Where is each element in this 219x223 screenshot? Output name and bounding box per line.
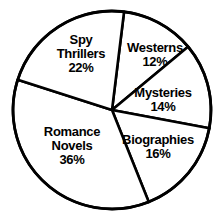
pie-slice-label-spy-thrillers: SpyThrillers22% (57, 33, 106, 75)
pie-slice-label-westerns: Westerns12% (127, 41, 183, 69)
slice-percent-value: 22% (57, 61, 106, 75)
slice-label-text: Spy (57, 33, 106, 47)
slice-label-text: Biographies (122, 133, 194, 147)
slice-label-text: Romance (44, 125, 100, 139)
pie-slice-label-biographies: Biographies16% (122, 133, 194, 161)
slice-label-text: Thrillers (57, 47, 106, 61)
slice-label-text: Novels (44, 139, 100, 153)
slice-percent-value: 14% (134, 100, 191, 114)
pie-slice-label-mysteries: Mysteries14% (134, 86, 191, 114)
pie-chart: Westerns12%Mysteries14%Biographies16%Rom… (0, 0, 219, 223)
slice-percent-value: 16% (122, 147, 194, 161)
slice-percent-value: 36% (44, 153, 100, 167)
slice-label-text: Westerns (127, 41, 183, 55)
pie-slice-label-romance-novels: RomanceNovels36% (44, 125, 100, 167)
slice-percent-value: 12% (127, 55, 183, 69)
slice-label-text: Mysteries (134, 86, 191, 100)
